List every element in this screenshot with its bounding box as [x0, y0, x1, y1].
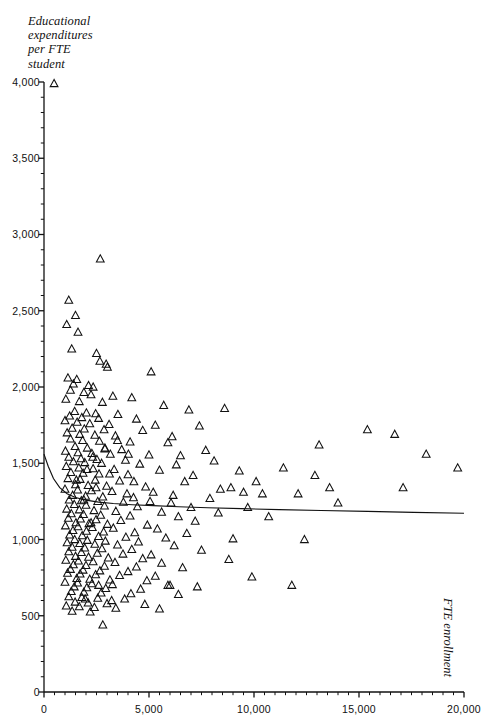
- data-point-marker: [99, 493, 107, 500]
- data-point-marker: [217, 485, 225, 492]
- data-point-marker: [252, 477, 260, 484]
- data-point-marker: [78, 532, 86, 539]
- data-point-marker: [141, 600, 149, 607]
- data-point-marker: [162, 534, 170, 541]
- data-point-marker: [75, 557, 83, 564]
- data-point-marker: [109, 580, 117, 587]
- data-point-marker: [100, 528, 108, 535]
- data-point-marker: [112, 604, 120, 611]
- data-point-marker: [62, 556, 70, 563]
- data-point-marker: [225, 555, 233, 562]
- data-point-marker: [137, 585, 145, 592]
- data-point-marker: [248, 573, 256, 580]
- data-point-marker: [221, 404, 229, 411]
- data-point-marker: [139, 426, 147, 433]
- data-point-marker: [88, 580, 96, 587]
- data-point-marker: [109, 392, 117, 399]
- data-point-marker: [146, 497, 154, 504]
- data-point-marker: [77, 548, 85, 555]
- data-point-marker: [131, 529, 139, 536]
- data-point-marker: [111, 558, 119, 565]
- data-point-marker: [210, 457, 218, 464]
- data-point-marker: [83, 409, 91, 416]
- data-point-marker: [61, 416, 69, 423]
- data-point-marker: [126, 512, 134, 519]
- data-point-marker: [99, 621, 107, 628]
- data-point-marker: [326, 484, 334, 491]
- data-point-marker: [98, 545, 106, 552]
- data-point-marker: [106, 470, 114, 477]
- data-point-marker: [422, 450, 430, 457]
- data-point-marker: [65, 296, 73, 303]
- data-point-marker: [62, 395, 70, 402]
- data-point-marker: [125, 450, 133, 457]
- data-point-marker: [62, 447, 70, 454]
- data-point-marker: [50, 79, 58, 86]
- data-point-marker: [93, 549, 101, 556]
- data-point-marker: [196, 422, 204, 429]
- data-point-marker: [158, 508, 166, 515]
- data-point-marker: [101, 537, 109, 544]
- data-point-marker: [93, 349, 101, 356]
- data-point-marker: [399, 484, 407, 491]
- data-point-marker: [83, 536, 91, 543]
- data-point-marker: [191, 517, 199, 524]
- data-point-marker: [116, 477, 124, 484]
- data-point-marker: [64, 374, 72, 381]
- data-point-marker: [96, 357, 104, 364]
- data-point-marker: [391, 430, 399, 437]
- data-point-marker: [70, 458, 78, 465]
- data-point-marker: [114, 436, 122, 443]
- data-point-marker: [66, 531, 74, 538]
- data-point-marker: [198, 546, 206, 553]
- data-point-marker: [104, 554, 112, 561]
- data-point-marker: [75, 506, 83, 513]
- data-point-marker: [227, 484, 235, 491]
- data-points: [50, 79, 461, 628]
- data-point-marker: [94, 594, 102, 601]
- data-point-marker: [311, 471, 319, 478]
- data-point-marker: [158, 559, 166, 566]
- data-point-marker: [154, 525, 162, 532]
- data-point-marker: [106, 576, 114, 583]
- data-point-marker: [65, 496, 73, 503]
- data-point-marker: [177, 452, 185, 459]
- scatter-plot: [0, 0, 485, 723]
- data-point-marker: [117, 516, 125, 523]
- data-point-marker: [189, 471, 197, 478]
- data-point-marker: [90, 506, 98, 513]
- data-point-marker: [80, 425, 88, 432]
- data-point-marker: [136, 460, 144, 467]
- data-point-marker: [149, 488, 157, 495]
- y-axis-ticks: [39, 82, 45, 692]
- data-point-marker: [92, 410, 100, 417]
- data-point-marker: [364, 426, 372, 433]
- data-point-marker: [139, 554, 147, 561]
- data-point-marker: [202, 446, 210, 453]
- data-point-marker: [105, 420, 113, 427]
- data-point-marker: [128, 545, 136, 552]
- data-point-marker: [259, 490, 267, 497]
- data-point-marker: [128, 394, 136, 401]
- data-point-marker: [147, 551, 155, 558]
- data-point-marker: [214, 509, 222, 516]
- data-point-marker: [135, 538, 143, 545]
- data-point-marker: [334, 499, 342, 506]
- data-point-marker: [101, 444, 109, 451]
- data-point-marker: [116, 571, 124, 578]
- data-point-marker: [280, 464, 288, 471]
- data-point-marker: [133, 415, 141, 422]
- data-point-marker: [77, 515, 85, 522]
- data-point-marker: [92, 484, 100, 491]
- data-point-marker: [73, 418, 81, 425]
- data-point-marker: [86, 420, 94, 427]
- data-point-marker: [143, 521, 151, 528]
- data-point-marker: [75, 397, 83, 404]
- data-point-marker: [74, 328, 82, 335]
- data-point-marker: [265, 513, 273, 520]
- data-point-marker: [98, 398, 106, 405]
- data-point-marker: [206, 494, 214, 501]
- data-point-marker: [229, 535, 237, 542]
- data-point-marker: [64, 514, 72, 521]
- data-point-marker: [108, 487, 116, 494]
